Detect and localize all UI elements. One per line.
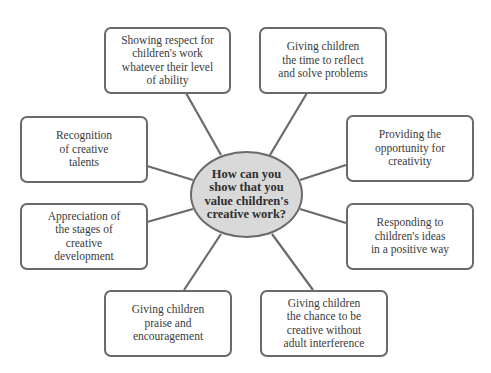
node-respect: Showing respect for children's work what… (104, 27, 231, 94)
node-chance: Giving children the chance to be creativ… (260, 290, 388, 357)
connector-praise (184, 234, 221, 290)
center-question-ellipse: How can you show that you value children… (190, 151, 303, 238)
node-opportunity-label: Providing the opportunity for creativity (375, 128, 445, 169)
node-time: Giving children the time to reflect and … (259, 27, 387, 94)
node-recognition-label: Recognition of creative talents (56, 129, 112, 170)
connector-respect (186, 93, 221, 155)
connector-time (270, 93, 307, 155)
connector-appreciation (147, 209, 193, 222)
node-opportunity: Providing the opportunity for creativity (346, 115, 474, 182)
spider-diagram: Showing respect for children's work what… (0, 0, 491, 373)
node-praise-label: Giving children praise and encouragement (132, 303, 205, 344)
node-respect-label: Showing respect for children's work what… (121, 34, 214, 88)
node-appreciation-label: Appreciation of the stages of creative d… (48, 210, 121, 264)
connector-responding (300, 209, 346, 223)
center-question-label: How can you show that you value children… (204, 168, 288, 222)
node-appreciation: Appreciation of the stages of creative d… (20, 203, 148, 270)
node-praise: Giving children praise and encouragement (104, 290, 232, 357)
node-responding-label: Responding to children's ideas in a posi… (371, 216, 449, 257)
node-responding: Responding to children's ideas in a posi… (346, 203, 474, 270)
node-chance-label: Giving children the chance to be creativ… (284, 297, 365, 351)
connector-chance (272, 234, 313, 290)
connector-opportunity (300, 165, 346, 180)
node-time-label: Giving children the time to reflect and … (278, 40, 367, 81)
node-recognition: Recognition of creative talents (20, 116, 148, 183)
connector-recognition (147, 166, 193, 180)
